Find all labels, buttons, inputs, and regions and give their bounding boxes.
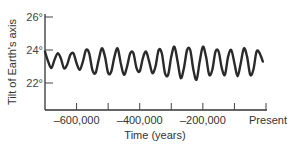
x-ticks: –600,000–400,000–200,000Present xyxy=(54,103,287,126)
y-ticks: 22°24°26° xyxy=(26,11,53,89)
x-tick-label: –200,000 xyxy=(180,114,226,126)
x-axis-title: Time (years) xyxy=(124,129,185,141)
x-tick-label: Present xyxy=(249,114,287,126)
y-tick-label: 26° xyxy=(26,11,43,23)
y-tick-label: 24° xyxy=(26,44,43,56)
tilt-line xyxy=(45,47,263,80)
y-tick-label: 22° xyxy=(26,77,43,89)
tilt-chart: 22°24°26° –600,000–400,000–200,000Presen… xyxy=(0,0,293,152)
y-axis-title: Tilt of Earth's axis xyxy=(6,18,18,105)
x-tick-label: –400,000 xyxy=(117,114,163,126)
x-tick-label: –600,000 xyxy=(54,114,100,126)
